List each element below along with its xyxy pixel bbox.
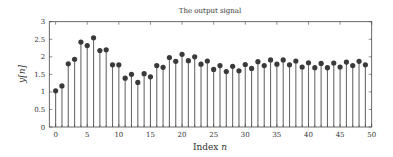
- stem-point: [160, 65, 165, 127]
- stem-point: [186, 58, 191, 127]
- stem-point: [319, 61, 324, 127]
- stem-marker: [236, 68, 241, 73]
- x-tick-label: 10: [114, 131, 123, 139]
- stem-point: [123, 76, 128, 127]
- stem-point: [148, 74, 153, 127]
- stem-marker: [319, 61, 324, 66]
- x-tick-label: 35: [272, 131, 281, 139]
- stem-marker: [337, 64, 342, 69]
- stem-point: [344, 59, 349, 127]
- stem-marker: [274, 62, 279, 67]
- stem-point: [274, 62, 279, 127]
- stem-marker: [110, 62, 115, 67]
- stem-marker: [123, 76, 128, 81]
- y-tick-label: 0.5: [34, 106, 45, 114]
- stem-marker: [293, 58, 298, 63]
- stem-point: [179, 52, 184, 127]
- stem-marker: [363, 62, 368, 67]
- stem-point: [230, 64, 235, 127]
- stem-marker: [53, 88, 58, 93]
- stem-point: [281, 57, 286, 127]
- stem-point: [110, 62, 115, 127]
- stem-marker: [167, 55, 172, 60]
- stem-marker: [173, 59, 178, 64]
- stem-point: [97, 48, 102, 127]
- x-tick-label: 15: [146, 131, 155, 139]
- stem-point: [59, 83, 64, 127]
- stem-point: [293, 58, 298, 127]
- stem-point: [363, 62, 368, 127]
- stem-point: [142, 71, 147, 127]
- stem-marker: [255, 59, 260, 64]
- stem-point: [287, 62, 292, 127]
- y-axis-label: y[n]: [17, 65, 27, 84]
- stem-marker: [66, 61, 71, 66]
- x-tick-label: 0: [53, 131, 57, 139]
- stem-marker: [350, 63, 355, 68]
- stem-marker: [135, 80, 140, 85]
- stem-point: [331, 61, 336, 127]
- stem-marker: [217, 63, 222, 68]
- stem-point: [262, 63, 267, 127]
- stem-point: [72, 57, 77, 127]
- stem-marker: [179, 52, 184, 57]
- stem-marker: [148, 74, 153, 79]
- stem-marker: [306, 60, 311, 65]
- stem-point: [192, 54, 197, 127]
- chart-canvas: The output signal 00.511.522.53 05101520…: [0, 0, 393, 157]
- stem-point: [154, 63, 159, 127]
- stem-point: [236, 68, 241, 127]
- stem-point: [249, 66, 254, 127]
- y-tick-label: 0: [41, 124, 45, 132]
- stem-point: [53, 88, 58, 127]
- stem-point: [91, 35, 96, 127]
- stem-point: [306, 60, 311, 127]
- stem-marker: [192, 54, 197, 59]
- stem-marker: [262, 63, 267, 68]
- stem-marker: [230, 64, 235, 69]
- stem-marker: [160, 65, 165, 70]
- stem-marker: [287, 62, 292, 67]
- x-tick-label: 30: [241, 131, 250, 139]
- stem-marker: [356, 59, 361, 64]
- stem-marker: [281, 57, 286, 62]
- stem-point: [116, 62, 121, 127]
- x-axis-label: Index n: [193, 142, 227, 152]
- y-tick-label: 3: [41, 18, 45, 26]
- stem-marker: [325, 65, 330, 70]
- stem-point: [268, 57, 273, 127]
- stem-marker: [142, 71, 147, 76]
- plot-area: [49, 22, 371, 127]
- stem-point: [205, 58, 210, 127]
- x-tick-label: 50: [367, 131, 376, 139]
- stem-marker: [243, 62, 248, 67]
- stem-point: [198, 62, 203, 127]
- stem-point: [243, 62, 248, 127]
- stem-point: [85, 43, 90, 127]
- stem-marker: [97, 48, 102, 53]
- stem-marker: [331, 61, 336, 66]
- stem-marker: [312, 65, 317, 70]
- stem-point: [211, 67, 216, 127]
- stem-point: [217, 63, 222, 127]
- stem-point: [167, 55, 172, 127]
- stem-marker: [198, 62, 203, 67]
- stem-marker: [224, 69, 229, 74]
- stem-chart: The output signal 00.511.522.53 05101520…: [0, 0, 393, 157]
- stem-marker: [116, 62, 121, 67]
- stem-point: [337, 64, 342, 127]
- stem-marker: [211, 67, 216, 72]
- stem-marker: [154, 63, 159, 68]
- stem-point: [312, 65, 317, 127]
- stem-marker: [59, 83, 64, 88]
- stem-marker: [186, 58, 191, 63]
- y-tick-label: 1.5: [34, 71, 45, 79]
- stem-marker: [72, 57, 77, 62]
- stem-marker: [104, 47, 109, 52]
- stem-point: [300, 64, 305, 127]
- x-tick-label: 20: [178, 131, 187, 139]
- stem-marker: [344, 59, 349, 64]
- stem-point: [356, 59, 361, 127]
- stem-marker: [205, 58, 210, 63]
- stem-marker: [268, 57, 273, 62]
